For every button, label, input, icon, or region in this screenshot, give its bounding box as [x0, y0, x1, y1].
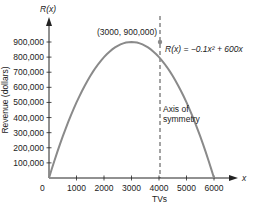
y-tick-label: 500,000 [13, 97, 44, 107]
y-tick-label: 100,000 [13, 158, 44, 168]
x-axis-arrow-icon [229, 175, 238, 181]
y-tick-label: 200,000 [13, 143, 44, 153]
y-tick-label: 800,000 [13, 52, 44, 62]
y-tick-label: 300,000 [13, 128, 44, 138]
y-tick-label: 700,000 [13, 67, 44, 77]
axis-of-symmetry-label-line1: Axis of [163, 104, 189, 114]
axes [46, 17, 238, 181]
vertex-label: (3000, 900,000) [97, 27, 157, 37]
y-axis-variable-label: R(x) [40, 4, 56, 14]
y-tick-label: 600,000 [13, 82, 44, 92]
equation-label: R(x) = −0.1x² + 600x [165, 44, 243, 54]
x-axis-title: TVs [152, 194, 167, 204]
revenue-curve [49, 42, 214, 178]
x-axis-variable-label: x [241, 173, 247, 183]
y-tick-label: 900,000 [13, 37, 44, 47]
axis-of-symmetry-label-line2: symmetry [163, 114, 201, 124]
x-tick-label: 4000 [150, 183, 169, 193]
x-tick-label: 1000 [67, 183, 86, 193]
revenue-parabola-chart: 100020003000400050006000 100,000200,0003… [0, 0, 253, 215]
x-tick-label: 5000 [177, 183, 196, 193]
origin-label: 0 [40, 183, 45, 193]
vertex-point [158, 40, 162, 44]
y-axis-arrow-icon [46, 17, 52, 26]
y-tick-label: 400,000 [13, 113, 44, 123]
x-tick-label: 6000 [205, 183, 224, 193]
y-ticks: 100,000200,000300,000400,000500,000600,0… [13, 37, 51, 168]
x-tick-label: 2000 [95, 183, 114, 193]
y-axis-title: Revenue (dollars) [0, 66, 10, 133]
x-tick-label: 3000 [122, 183, 141, 193]
